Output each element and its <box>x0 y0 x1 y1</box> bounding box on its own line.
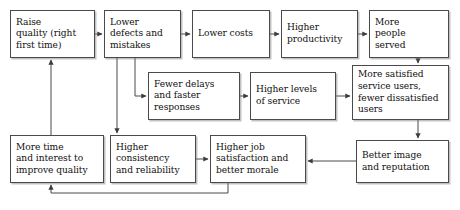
node-label: Fewer delays and faster responses <box>154 79 214 114</box>
node-higher-productivity[interactable]: Higher productivity <box>281 10 358 58</box>
node-fewer-delays[interactable]: Fewer delays and faster responses <box>148 72 240 120</box>
node-higher-levels-service[interactable]: Higher levels of service <box>250 72 336 120</box>
edge-jobsat-to-moretime <box>51 183 228 193</box>
node-label: Higher productivity <box>287 22 342 45</box>
node-label: Higher consistency and reliability <box>116 142 180 177</box>
node-label: More satisfied service users, fewer diss… <box>358 69 438 115</box>
node-label: Lower costs <box>198 28 253 40</box>
node-more-time-interest[interactable]: More time and interest to improve qualit… <box>10 135 104 183</box>
node-label: Raise quality (right first time) <box>16 17 76 52</box>
node-label: Lower defects and mistakes <box>110 17 163 52</box>
node-lower-defects[interactable]: Lower defects and mistakes <box>104 10 181 58</box>
flowchart-canvas: Raise quality (right first time) Lower d… <box>0 0 460 210</box>
node-label: More people served <box>375 17 406 52</box>
node-label: Higher job satisfaction and better moral… <box>216 142 288 177</box>
node-lower-costs[interactable]: Lower costs <box>192 10 270 58</box>
edge-defects-to-delays <box>135 58 146 96</box>
node-raise-quality[interactable]: Raise quality (right first time) <box>10 10 95 58</box>
node-better-image[interactable]: Better image and reputation <box>356 140 449 183</box>
node-more-people-served[interactable]: More people served <box>369 10 449 58</box>
node-label: Higher levels of service <box>256 84 317 107</box>
node-label: More time and interest to improve qualit… <box>16 142 88 177</box>
node-label: Better image and reputation <box>362 150 430 173</box>
node-more-satisfied-users[interactable]: More satisfied service users, fewer diss… <box>352 65 449 120</box>
node-higher-consistency[interactable]: Higher consistency and reliability <box>110 135 196 183</box>
node-higher-job-satisfaction[interactable]: Higher job satisfaction and better moral… <box>210 135 306 183</box>
